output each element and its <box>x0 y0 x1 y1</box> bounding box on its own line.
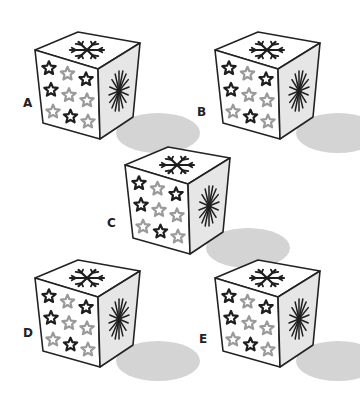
cube-drawing <box>30 253 180 383</box>
option-cube-d[interactable] <box>30 253 180 383</box>
cube-drawing <box>120 140 270 270</box>
option-label-a: A <box>23 96 32 110</box>
option-cube-a[interactable] <box>30 25 180 155</box>
option-cube-c[interactable] <box>120 140 270 270</box>
option-label-c: C <box>107 216 116 230</box>
cube-drawing <box>210 25 360 155</box>
option-label-e: E <box>199 332 207 346</box>
option-cube-e[interactable] <box>210 253 360 383</box>
cube-drawing <box>210 253 360 383</box>
option-label-b: B <box>197 105 206 119</box>
cube-drawing <box>30 25 180 155</box>
option-label-d: D <box>23 326 33 340</box>
option-cube-b[interactable] <box>210 25 360 155</box>
